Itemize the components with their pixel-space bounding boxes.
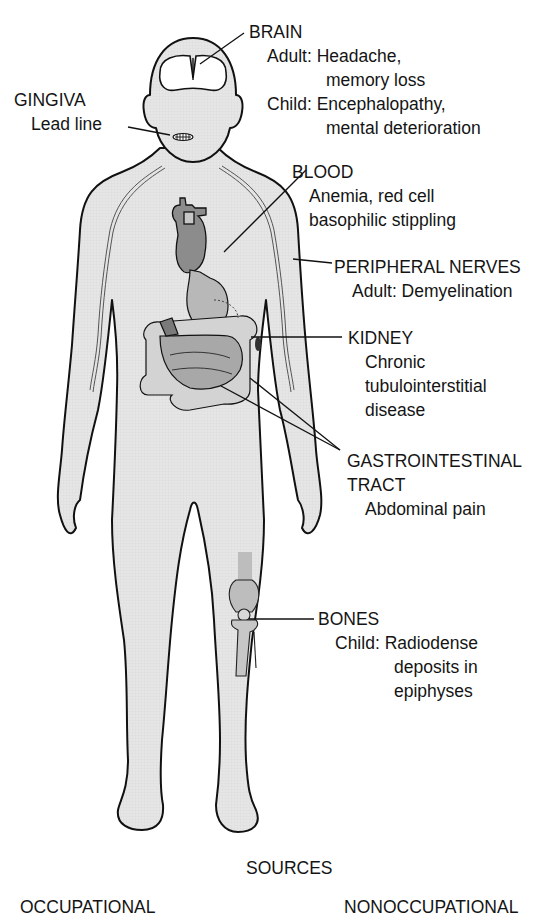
bones-text-2: deposits in: [318, 655, 478, 679]
bones-child-prefix: Child:: [335, 633, 380, 653]
brain-child-text-2: mental deterioration: [249, 116, 481, 140]
gastrointestinal-label: GASTROINTESTINAL TRACT Abdominal pain: [347, 449, 522, 521]
bones-label: BONES Child: Radiodense deposits in epip…: [318, 607, 478, 703]
blood-title: BLOOD: [292, 160, 456, 184]
peripheral-nerves-title: PERIPHERAL NERVES: [334, 255, 521, 279]
lead-toxicity-diagram: BRAIN Adult: Headache, memory loss Child…: [0, 0, 556, 920]
kidney-text-3: disease: [348, 398, 487, 422]
brain-title: BRAIN: [249, 20, 481, 44]
gastrointestinal-title-1: GASTROINTESTINAL: [347, 449, 522, 473]
peripheral-nerves-text: Adult: Demyelination: [334, 279, 521, 303]
brain-adult-prefix: Adult:: [267, 46, 312, 66]
sources-heading: SOURCES: [246, 856, 333, 880]
body-outline: [58, 38, 322, 832]
gingiva-label: GINGIVA Lead line: [14, 88, 102, 136]
nonoccupational-heading: NONOCCUPATIONAL: [344, 895, 518, 919]
gastrointestinal-title-2: TRACT: [347, 473, 522, 497]
kidney-text-1: Chronic: [348, 350, 487, 374]
gingiva-text: Lead line: [14, 112, 102, 136]
gingiva-title: GINGIVA: [14, 88, 102, 112]
peripheral-nerves-label: PERIPHERAL NERVES Adult: Demyelination: [334, 255, 521, 303]
kidney-text-2: tubulointerstitial: [348, 374, 487, 398]
occupational-heading: OCCUPATIONAL: [20, 895, 155, 919]
brain-label: BRAIN Adult: Headache, memory loss Child…: [249, 20, 481, 140]
kidney-title: KIDNEY: [348, 326, 487, 350]
blood-text-2: basophilic stippling: [292, 208, 456, 232]
blood-text-1: Anemia, red cell: [292, 184, 456, 208]
brain-organ: [160, 56, 227, 91]
bones-title: BONES: [318, 607, 478, 631]
brain-adult-text-2: memory loss: [249, 68, 481, 92]
bones-child-text: Radiodense: [385, 633, 478, 653]
gastrointestinal-text: Abdominal pain: [347, 497, 522, 521]
kidney-organ: [255, 337, 261, 351]
brain-adult-text: Headache,: [317, 46, 402, 66]
bones-text-3: epiphyses: [318, 679, 478, 703]
heart-organ: [173, 198, 206, 273]
kidney-label: KIDNEY Chronic tubulointerstitial diseas…: [348, 326, 487, 422]
brain-child-text: Encephalopathy,: [317, 94, 446, 114]
blood-label: BLOOD Anemia, red cell basophilic stippl…: [292, 160, 456, 232]
brain-child-prefix: Child:: [267, 94, 312, 114]
gingiva-mouth: [173, 134, 193, 141]
